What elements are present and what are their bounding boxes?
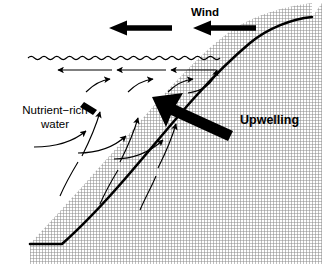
circulation-arrow-mid-1 — [34, 131, 86, 147]
nutrient-label-line-1: Nutrient−rich — [22, 104, 88, 116]
continental-slope — [30, 3, 322, 264]
upwelling-diagram: Wind — [0, 0, 322, 264]
nutrient-rich-water-label-group: Nutrient−rich water — [22, 102, 97, 130]
wind-label: Wind — [191, 6, 219, 18]
nutrient-label-line-2: water — [40, 118, 69, 130]
upwelling-label: Upwelling — [240, 113, 299, 127]
wavy-water-line — [28, 56, 220, 59]
diagram-canvas: Wind — [0, 0, 322, 264]
circulation-arrow-upper-2 — [128, 79, 153, 92]
circulation-arrow-deep-4 — [60, 162, 78, 196]
circulation-arrow-upper-1 — [86, 79, 110, 92]
water-surface — [28, 56, 220, 59]
circulation-arrow-deep-1 — [82, 112, 100, 156]
wind-arrow-left — [109, 21, 172, 36]
